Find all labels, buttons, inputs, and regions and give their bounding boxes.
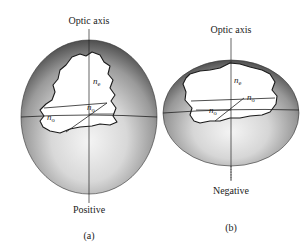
index-ellipsoid-figure: Optic axis ne no no Positive (a) Optic a… — [0, 0, 304, 250]
optic-axis-label-a: Optic axis — [69, 15, 110, 26]
positive-label: Positive — [73, 204, 106, 215]
optic-axis-label-b: Optic axis — [211, 24, 252, 35]
cutout-window-b — [183, 63, 277, 123]
caption-a: (a) — [83, 230, 94, 242]
panel-b: Optic axis ne no no Negative (b) — [163, 24, 299, 234]
negative-label: Negative — [213, 185, 250, 196]
panel-a: Optic axis ne no no Positive (a) — [21, 15, 157, 242]
caption-b: (b) — [225, 222, 237, 234]
